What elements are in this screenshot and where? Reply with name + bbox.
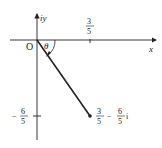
svg-text:−: − <box>107 112 112 121</box>
svg-text:6: 6 <box>118 107 122 116</box>
point-marker <box>88 114 92 118</box>
x-tick-label: 3 5 <box>86 17 94 36</box>
svg-text:3: 3 <box>97 107 101 116</box>
origin-label: O <box>26 41 33 52</box>
vector-line <box>37 40 90 116</box>
svg-text:−: − <box>12 112 17 121</box>
svg-text:3: 3 <box>87 17 91 26</box>
y-axis-label: iy <box>40 13 47 23</box>
svg-text:i: i <box>126 112 129 121</box>
svg-text:5: 5 <box>118 117 122 126</box>
angle-label: θ <box>44 41 49 51</box>
svg-text:5: 5 <box>87 27 91 36</box>
point-label: 3 5 − 6 5 i <box>96 107 129 126</box>
argand-diagram: O θ iy x 3 5 − 6 5 3 5 − 6 5 i <box>0 0 162 148</box>
x-axis-label: x <box>148 44 153 54</box>
svg-text:5: 5 <box>21 117 25 126</box>
svg-text:5: 5 <box>97 117 101 126</box>
svg-text:6: 6 <box>21 107 25 116</box>
y-tick-label: − 6 5 <box>12 107 28 126</box>
